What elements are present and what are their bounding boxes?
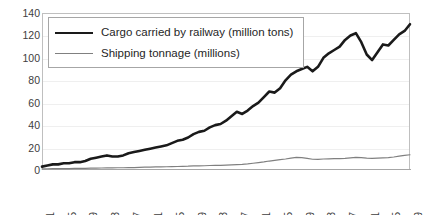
x-axis-tick-label: 1871	[36, 172, 48, 214]
legend: Cargo carried by railway (million tons) …	[48, 17, 304, 68]
x-axis-tick-labels: 1871187518791883188718911895189919031907…	[42, 172, 410, 215]
y-axis-tick-label: 20	[2, 143, 40, 153]
legend-swatch-icon	[55, 32, 93, 34]
legend-swatch-icon	[55, 53, 93, 54]
y-axis-tick-label: 140	[2, 8, 40, 18]
y-axis-tick-label: 40	[2, 120, 40, 130]
x-axis-tick-label: 1891	[144, 172, 156, 214]
legend-item-label: Shipping tonnage (millions)	[101, 47, 240, 60]
x-axis-tick-label: 1895	[166, 172, 178, 214]
x-axis-tick-label: 1903	[209, 172, 221, 214]
x-axis-tick-label: 1899	[188, 172, 200, 214]
y-axis-tick-label: 120	[2, 30, 40, 40]
legend-item-shipping-tonnage: Shipping tonnage (millions)	[55, 43, 297, 64]
x-axis-tick-label: 1919	[296, 172, 308, 214]
y-axis-tick-label: 60	[2, 98, 40, 108]
legend-item-cargo-railway: Cargo carried by railway (million tons)	[55, 22, 297, 43]
x-axis-tick-label: 1923	[317, 172, 329, 214]
x-axis-tick-label: 1907	[231, 172, 243, 214]
x-axis-tick-label: 1935	[382, 172, 394, 214]
y-axis-tick-label: 80	[2, 75, 40, 85]
x-axis-tick-label: 1915	[274, 172, 286, 214]
y-axis-tick-labels: 140120100806040200	[0, 0, 40, 215]
x-axis-tick-label: 1879	[79, 172, 91, 214]
y-axis-tick-label: 0	[2, 165, 40, 175]
line-chart: 140120100806040200 187118751879188318871…	[0, 0, 429, 215]
x-axis-tick-label: 1887	[123, 172, 135, 214]
x-axis-tick-label: 1875	[58, 172, 70, 214]
x-axis-tick-label: 1927	[339, 172, 351, 214]
x-axis-tick-label: 1931	[361, 172, 373, 214]
x-axis-tick-label: 1883	[101, 172, 113, 214]
x-axis-tick-label: 1939	[404, 172, 416, 214]
legend-item-label: Cargo carried by railway (million tons)	[101, 26, 293, 39]
x-axis-tick-label: 1911	[252, 172, 264, 214]
y-axis-tick-label: 100	[2, 53, 40, 63]
